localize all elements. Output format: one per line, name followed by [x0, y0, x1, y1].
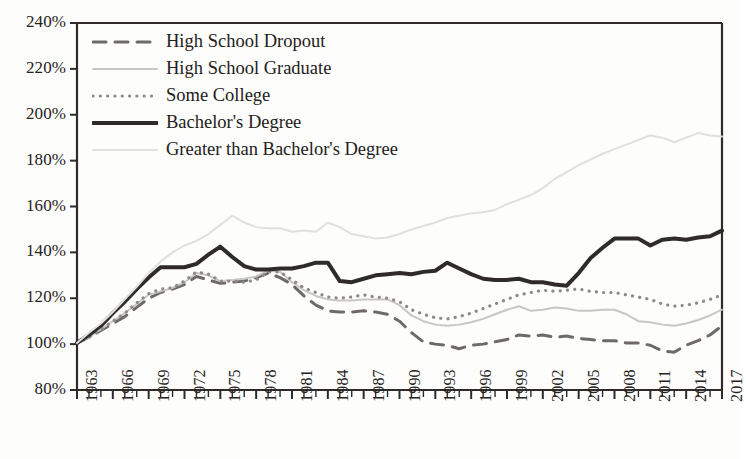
- x-tick-label: 1990: [406, 369, 424, 402]
- legend-item-some-college: Some College: [92, 82, 398, 109]
- x-tick-label: 2002: [549, 369, 567, 402]
- y-tick-label: 100%: [2, 333, 66, 353]
- x-tick-label: 1969: [155, 369, 173, 402]
- x-tick-label: 1993: [441, 369, 459, 402]
- x-tick-label: 2011: [656, 370, 674, 402]
- x-tick-label: 1978: [262, 369, 280, 402]
- y-tick-label: 220%: [2, 58, 66, 78]
- y-tick-label: 160%: [2, 196, 66, 216]
- legend-label: High School Dropout: [166, 32, 325, 51]
- x-tick-label: 1963: [83, 369, 101, 402]
- y-tick-label: 240%: [2, 12, 66, 32]
- legend-line-icon: [92, 62, 158, 76]
- x-tick-label: 2014: [692, 369, 710, 402]
- x-tick-label: 1987: [370, 369, 388, 402]
- legend-label: Some College: [166, 86, 270, 105]
- y-tick-label: 180%: [2, 150, 66, 170]
- legend-label: Bachelor's Degree: [166, 113, 301, 132]
- x-tick-label: 2008: [621, 369, 639, 402]
- legend-item-greater-than-bachelor-s-degree: Greater than Bachelor's Degree: [92, 136, 398, 163]
- x-tick-label: 1966: [119, 369, 137, 402]
- x-tick-label: 2017: [728, 369, 746, 402]
- legend-line-icon: [92, 35, 158, 49]
- legend-item-high-school-graduate: High School Graduate: [92, 55, 398, 82]
- y-tick-label: 80%: [2, 379, 66, 399]
- x-tick-label: 1999: [513, 369, 531, 402]
- x-tick-label: 2005: [585, 369, 603, 402]
- x-tick-label: 1996: [477, 369, 495, 402]
- series-line-high-school-graduate: [77, 271, 722, 343]
- x-tick-label: 1984: [334, 369, 352, 402]
- x-tick-label: 1972: [191, 369, 209, 402]
- legend-line-icon: [92, 116, 158, 130]
- x-tick-label: 1975: [226, 369, 244, 402]
- x-tick-label: 1981: [298, 369, 316, 402]
- legend-item-bachelor-s-degree: Bachelor's Degree: [92, 109, 398, 136]
- y-tick-label: 120%: [2, 287, 66, 307]
- y-tick-label: 140%: [2, 241, 66, 261]
- legend-label: High School Graduate: [166, 59, 331, 78]
- chart-legend: High School DropoutHigh School GraduateS…: [92, 28, 398, 163]
- legend-line-icon: [92, 143, 158, 157]
- legend-line-icon: [92, 89, 158, 103]
- legend-item-high-school-dropout: High School Dropout: [92, 28, 398, 55]
- data-series-layer: [77, 133, 722, 352]
- series-line-some-college: [77, 272, 722, 343]
- legend-label: Greater than Bachelor's Degree: [166, 140, 398, 159]
- series-line-high-school-dropout: [77, 273, 722, 352]
- y-tick-label: 200%: [2, 104, 66, 124]
